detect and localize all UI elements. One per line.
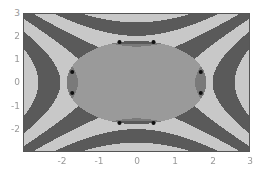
contour-canvas: [23, 13, 250, 152]
y-tick-label: 0: [0, 77, 20, 87]
x-tick-label: -2: [52, 156, 72, 166]
x-tick-label: -1: [89, 156, 109, 166]
y-tick-label: 2: [0, 31, 20, 41]
x-tick-label: 2: [203, 156, 223, 166]
y-tick-label: 1: [0, 54, 20, 64]
y-tick-label: 3: [0, 8, 20, 18]
x-tick-label: 3: [240, 156, 260, 166]
x-tick-label: 1: [165, 156, 185, 166]
y-tick-label: -2: [0, 124, 20, 134]
y-tick-label: -1: [0, 101, 20, 111]
x-tick-label: 0: [127, 156, 147, 166]
